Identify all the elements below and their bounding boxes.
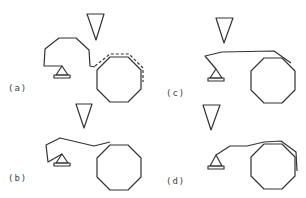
goal-triangle-icon [76,104,92,128]
base-plate [54,75,70,78]
octagon-obstacle [97,57,141,102]
goal-triangle-icon [87,14,104,40]
base-support-icon [56,154,68,163]
goal-triangle-icon [216,18,233,43]
robot-arm-diagram [0,0,306,198]
octagon-obstacle [97,145,141,190]
panel-c [205,18,295,103]
base-support-icon [210,155,222,166]
panel-d [203,105,297,189]
base-plate [208,166,224,169]
panel-label-a: (a) [8,83,27,93]
octagon-obstacle [251,144,295,189]
robot-arm [216,141,297,171]
robot-arm [44,38,95,67]
robot-arm [205,51,291,69]
base-support-icon [210,69,222,78]
panel-b [46,104,141,190]
panel-label-b: (b) [8,173,27,183]
dashed-path [95,54,143,82]
base-plate [54,163,70,166]
octagon-obstacle [251,58,295,103]
robot-arm [46,138,110,162]
goal-triangle-icon [203,105,220,130]
base-plate [208,78,224,81]
base-support-icon [56,66,68,75]
panel-label-c: (c) [166,88,185,98]
panel-a [44,14,143,102]
panel-label-d: (d) [166,176,185,186]
